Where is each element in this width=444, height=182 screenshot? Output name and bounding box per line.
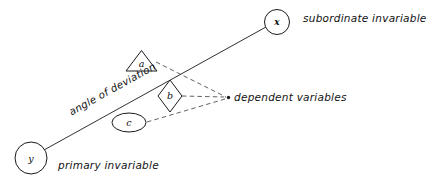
caption-angle-of-deviation: angle of deviation (67, 61, 157, 118)
node-x-label: x (273, 17, 280, 27)
node-c-label: c (126, 117, 132, 128)
diagram-canvas: x y a b c subordinate invariable depende… (0, 0, 444, 182)
caption-subordinate-invariable: subordinate invariable (303, 12, 427, 24)
diagram-svg: x y a b c subordinate invariable depende… (0, 0, 444, 182)
primary-axis-line (44, 27, 266, 150)
dependent-variables-point (227, 96, 230, 99)
caption-primary-invariable: primary invariable (57, 159, 159, 171)
caption-dependent-variables: dependent variables (234, 91, 347, 103)
node-b-label: b (167, 90, 173, 101)
dashed-link-c-to-dependent (147, 99, 225, 122)
node-y-label: y (27, 153, 34, 164)
dashed-link-b-to-dependent (182, 96, 224, 97)
